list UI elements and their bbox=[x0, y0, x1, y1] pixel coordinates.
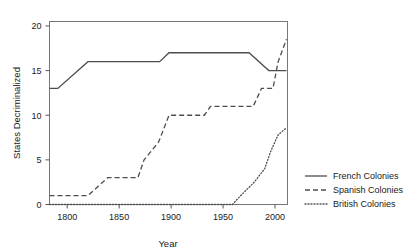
axis-tick-labels: 1800185019001950200005101520 bbox=[31, 21, 285, 221]
x-tick-label: 1800 bbox=[57, 212, 77, 222]
x-tick-label: 1900 bbox=[161, 212, 181, 222]
line-chart: 1800185019001950200005101520 French Colo… bbox=[0, 0, 419, 252]
y-tick-label: 0 bbox=[36, 200, 41, 210]
y-axis-label: States Decriminalized bbox=[11, 67, 22, 159]
data-series-group bbox=[50, 39, 287, 204]
y-tick-label: 15 bbox=[31, 66, 41, 76]
chart-figure: 1800185019001950200005101520 French Colo… bbox=[0, 0, 419, 252]
y-tick-label: 10 bbox=[31, 111, 41, 121]
x-axis-label: Year bbox=[158, 238, 177, 249]
series-line-french-colonies bbox=[50, 53, 287, 89]
y-tick-label: 20 bbox=[31, 21, 41, 31]
legend-label: Spanish Colonies bbox=[333, 185, 404, 195]
legend-label: French Colonies bbox=[333, 171, 399, 181]
y-tick-label: 5 bbox=[36, 155, 41, 165]
plot-frame bbox=[50, 22, 288, 205]
series-line-british-colonies bbox=[50, 128, 287, 205]
series-line-spanish-colonies bbox=[50, 39, 287, 195]
chart-legend: French ColoniesSpanish ColoniesBritish C… bbox=[305, 171, 404, 209]
x-tick-label: 1850 bbox=[109, 212, 129, 222]
x-tick-label: 1950 bbox=[213, 212, 233, 222]
legend-label: British Colonies bbox=[333, 199, 396, 209]
x-tick-label: 2000 bbox=[265, 212, 285, 222]
